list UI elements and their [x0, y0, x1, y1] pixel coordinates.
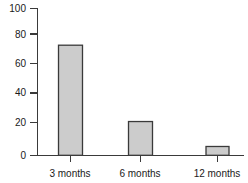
y-axis-tick-label-100: 100: [9, 3, 26, 14]
bar-3-months: [59, 45, 83, 155]
chart-canvas: 100 80 60 40 20 0 3 months 6: [0, 0, 248, 183]
y-axis-tick-label-20: 20: [15, 117, 27, 128]
bar-6-months: [129, 122, 153, 156]
y-axis-tick-label-40: 40: [15, 87, 27, 98]
x-axis-tick-label-3-months: 3 months: [49, 168, 90, 179]
bar-12-months: [206, 146, 229, 155]
y-axis-tick-label-0: 0: [20, 150, 26, 161]
y-axis-tick-label-60: 60: [15, 58, 27, 69]
x-axis-ticks: [71, 156, 218, 162]
y-axis-tick-label-80: 80: [15, 29, 27, 40]
x-axis-tick-label-6-months: 6 months: [119, 168, 160, 179]
y-axis-ticks: [30, 9, 37, 156]
x-axis-tick-label-12-months: 12 months: [194, 168, 241, 179]
bar-chart: 100 80 60 40 20 0 3 months 6: [0, 0, 248, 183]
